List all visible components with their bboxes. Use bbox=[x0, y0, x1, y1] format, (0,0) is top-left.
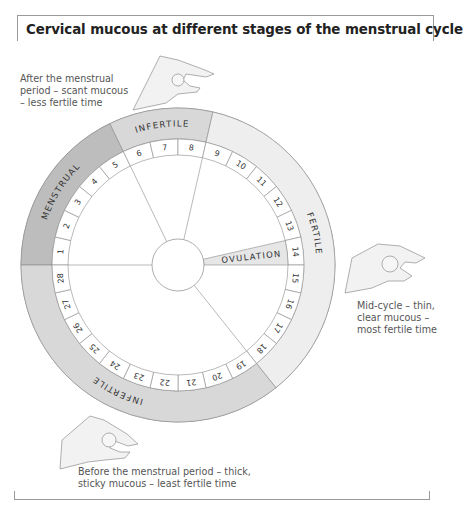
day-number: 7 bbox=[162, 143, 168, 153]
hand-thick-sticky-icon bbox=[60, 416, 138, 469]
day-number: 15 bbox=[290, 273, 300, 284]
day-number: 14 bbox=[290, 246, 300, 257]
day-number: 22 bbox=[159, 377, 170, 387]
day-number: 21 bbox=[186, 377, 197, 387]
hub-circle bbox=[152, 239, 204, 291]
hand-thin-clear-icon bbox=[345, 244, 425, 293]
day-number: 1 bbox=[56, 249, 66, 255]
caption-before-period: Before the menstrual period – thick, sti… bbox=[78, 466, 278, 490]
day-number: 28 bbox=[56, 273, 66, 284]
day-number: 8 bbox=[188, 143, 194, 153]
caption-after-period: After the menstrual period – scant mucou… bbox=[20, 73, 130, 109]
hand-scant-icon bbox=[133, 56, 214, 110]
caption-mid-cycle: Mid-cycle – thin, clear mucous – most fe… bbox=[357, 300, 447, 336]
